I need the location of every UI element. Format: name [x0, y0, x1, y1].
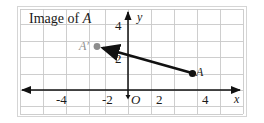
figure-caption-point-label: A: [83, 11, 92, 26]
y-axis-label: y: [137, 11, 142, 23]
point-A-label: A: [196, 66, 203, 78]
figure-caption-text: Image of: [29, 11, 83, 26]
x-tick-label-2: 2: [156, 93, 163, 106]
y-axis-lower-tip: [126, 95, 131, 100]
coordinate-plane-figure: Image of A 4 2 -4 -2 2 4 O y x A A′: [0, 0, 264, 123]
figure-caption: Image of A: [29, 12, 91, 26]
point-A-prime: [94, 43, 101, 50]
origin-label: O: [131, 93, 140, 106]
x-tick-label-minus2: -2: [102, 93, 113, 106]
point-A-prime-label: A′: [79, 40, 89, 52]
y-tick-label-2: 2: [115, 52, 122, 65]
x-axis-label: x: [234, 93, 239, 105]
y-tick-label-4: 4: [115, 19, 122, 32]
x-tick-label-4: 4: [202, 93, 209, 106]
x-tick-label-minus4: -4: [56, 93, 67, 106]
